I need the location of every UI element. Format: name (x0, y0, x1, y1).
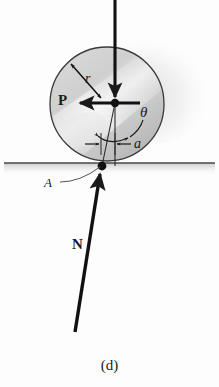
figure-root: P N r θ a A (d) (0, 0, 219, 387)
hub-center-dot (111, 99, 119, 107)
distance-a-label: a (134, 137, 141, 151)
diagram-canvas (0, 0, 219, 387)
point-a-label: A (44, 176, 52, 189)
figure-caption: (d) (0, 358, 219, 373)
ground-shading (4, 163, 215, 176)
force-n-label: N (72, 237, 83, 252)
force-p-label: P (58, 93, 67, 108)
force-n-arrow (75, 174, 100, 332)
angle-theta-label: θ (140, 105, 147, 120)
contact-point-dot (98, 162, 107, 171)
radius-r-label: r (85, 72, 90, 86)
